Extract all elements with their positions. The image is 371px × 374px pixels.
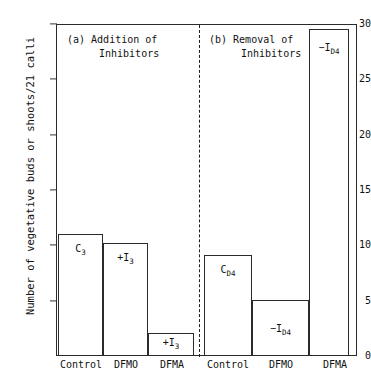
x-tick-a-dfma: DFMA bbox=[148, 359, 196, 370]
x-tick-b-control: Control bbox=[202, 359, 254, 370]
figure-bar-chart: Number of vegetative buds or shoots/21 c… bbox=[0, 0, 371, 374]
panel-a-caption: (a) Addition ofInhibitors bbox=[67, 33, 159, 60]
bar-label-a-control: C3 bbox=[59, 243, 102, 257]
y-axis-title: Number of vegetative buds or shoots/21 c… bbox=[24, 6, 36, 346]
bar-label-b-dfmo: −ID4 bbox=[253, 323, 308, 337]
panel-a-caption-line2: Inhibitors bbox=[67, 48, 159, 59]
x-tick-a-dfmo: DFMO bbox=[102, 359, 150, 370]
bar-a-dfma: +I3 bbox=[148, 333, 194, 355]
bar-label-b-control: CD4 bbox=[205, 264, 251, 278]
bar-label-a-dfma: +I3 bbox=[149, 337, 193, 351]
panel-a-caption-line1: (a) Addition of bbox=[67, 34, 157, 45]
panel-divider bbox=[199, 25, 200, 357]
bar-label-a-dfmo: +I3 bbox=[104, 252, 147, 266]
bar-a-control: C3 bbox=[58, 234, 103, 355]
panel-b-caption-line2: Inhibitors bbox=[209, 48, 301, 59]
x-tick-b-dfmo: DFMO bbox=[254, 359, 308, 370]
plot-area: (a) Addition ofInhibitors (b) Removal of… bbox=[56, 24, 357, 356]
bar-label-b-dfma: −ID4 bbox=[310, 42, 348, 56]
x-tick-a-control: Control bbox=[55, 359, 107, 370]
panel-b-caption: (b) Removal ofInhibitors bbox=[209, 33, 301, 60]
bar-b-control: CD4 bbox=[204, 255, 252, 355]
bar-b-dfma: −ID4 bbox=[309, 29, 349, 356]
bar-a-dfmo: +I3 bbox=[103, 243, 148, 355]
panel-b-caption-line1: (b) Removal of bbox=[209, 34, 293, 45]
x-tick-b-dfma: DFMA bbox=[308, 359, 362, 370]
bar-b-dfmo: −ID4 bbox=[252, 300, 309, 355]
